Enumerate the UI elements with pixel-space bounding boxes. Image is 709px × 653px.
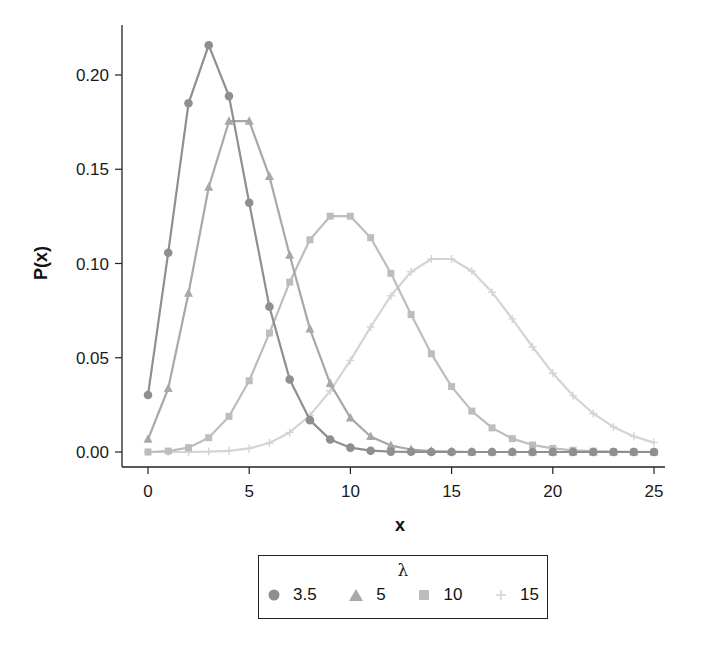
data-point xyxy=(408,311,415,318)
legend-item-15: 15 xyxy=(494,585,539,605)
circle-icon xyxy=(267,588,281,602)
data-point xyxy=(266,330,273,337)
triangle-icon xyxy=(348,588,364,602)
y-tick-label: 0.10 xyxy=(76,255,109,274)
data-point xyxy=(346,443,355,452)
data-point xyxy=(489,424,496,431)
legend-items: 3.5 5 10 15 xyxy=(267,585,539,605)
data-point xyxy=(650,448,659,457)
data-point xyxy=(225,92,234,101)
data-point xyxy=(326,435,335,444)
legend-item-10: 10 xyxy=(417,585,462,605)
data-point xyxy=(448,383,455,390)
data-point xyxy=(387,270,394,277)
data-point xyxy=(306,236,313,243)
x-tick-label: 15 xyxy=(442,482,461,501)
data-point xyxy=(428,350,435,357)
x-tick-label: 25 xyxy=(645,482,664,501)
data-point xyxy=(245,444,253,452)
legend-title: λ xyxy=(259,560,547,580)
data-point xyxy=(185,444,192,451)
data-point xyxy=(630,432,638,440)
series-3-5 xyxy=(144,41,659,456)
y-tick-label: 0.05 xyxy=(76,349,109,368)
y-tick-label: 0.20 xyxy=(76,66,109,85)
data-point xyxy=(589,448,598,457)
data-point xyxy=(447,448,456,457)
data-point xyxy=(347,213,354,220)
series-10 xyxy=(145,213,658,456)
x-tick-label: 10 xyxy=(341,482,360,501)
data-point xyxy=(468,448,477,457)
data-point xyxy=(326,379,335,388)
legend-item-3-5: 3.5 xyxy=(267,585,317,605)
legend-label: 10 xyxy=(443,585,462,605)
data-point xyxy=(144,434,153,443)
data-point xyxy=(225,447,233,455)
legend-label: 15 xyxy=(520,585,539,605)
legend: λ 3.5 5 10 15 xyxy=(258,555,548,619)
data-point xyxy=(650,439,658,447)
data-point xyxy=(367,234,374,241)
data-point xyxy=(184,288,193,297)
data-point xyxy=(609,448,618,457)
data-point xyxy=(569,448,578,457)
data-point xyxy=(285,375,294,384)
y-axis-title: P(x) xyxy=(31,246,51,280)
data-point xyxy=(528,448,537,457)
data-point xyxy=(265,171,274,180)
data-point xyxy=(225,413,232,420)
data-point xyxy=(246,377,253,384)
square-icon xyxy=(417,588,431,602)
data-point xyxy=(205,448,213,456)
data-point xyxy=(508,448,517,457)
data-point xyxy=(366,446,375,455)
data-point xyxy=(164,383,173,392)
data-point xyxy=(306,416,315,425)
data-point xyxy=(427,448,436,457)
legend-label: 3.5 xyxy=(293,585,317,605)
data-point xyxy=(184,99,193,108)
legend-label: 5 xyxy=(376,585,385,605)
x-tick-label: 5 xyxy=(244,482,253,501)
data-point xyxy=(468,408,475,415)
data-point xyxy=(145,449,152,456)
plus-icon xyxy=(494,588,508,602)
data-point xyxy=(164,248,173,257)
data-point xyxy=(265,302,274,311)
data-point xyxy=(327,213,334,220)
data-point xyxy=(144,391,153,400)
data-point xyxy=(265,439,273,447)
data-point xyxy=(629,448,638,457)
x-axis-title: x xyxy=(395,515,405,535)
data-point xyxy=(509,435,516,442)
axes: 0.000.050.100.150.200510152025 xyxy=(76,25,665,501)
data-point xyxy=(387,447,396,456)
series-group xyxy=(144,41,659,456)
data-point xyxy=(205,434,212,441)
data-point xyxy=(165,448,172,455)
data-point xyxy=(407,448,416,457)
data-point xyxy=(245,199,254,208)
x-tick-label: 0 xyxy=(143,482,152,501)
legend-item-5: 5 xyxy=(348,585,385,605)
data-point xyxy=(204,41,213,50)
x-tick-label: 20 xyxy=(543,482,562,501)
series-5 xyxy=(144,116,659,455)
data-point xyxy=(305,324,314,333)
data-point xyxy=(285,250,294,259)
data-point xyxy=(204,182,213,191)
data-point xyxy=(488,448,497,457)
data-point xyxy=(549,448,558,457)
y-tick-label: 0.15 xyxy=(76,160,109,179)
data-point xyxy=(286,279,293,286)
y-tick-label: 0.00 xyxy=(76,443,109,462)
